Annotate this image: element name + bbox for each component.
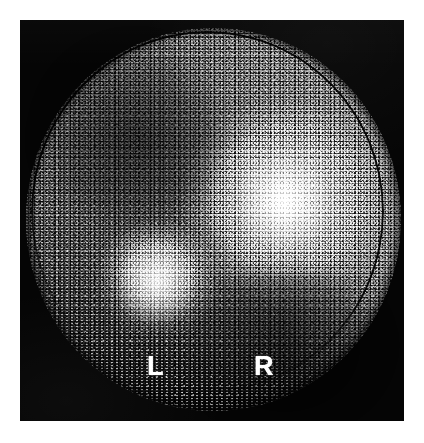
scintigraphy-scan-page: L R: [0, 0, 424, 443]
collimator-edge-arc: [31, 31, 384, 392]
orientation-marker-left: L: [147, 353, 164, 380]
scan-film-plate: L R: [20, 20, 404, 421]
orientation-marker-right: R: [254, 353, 274, 380]
